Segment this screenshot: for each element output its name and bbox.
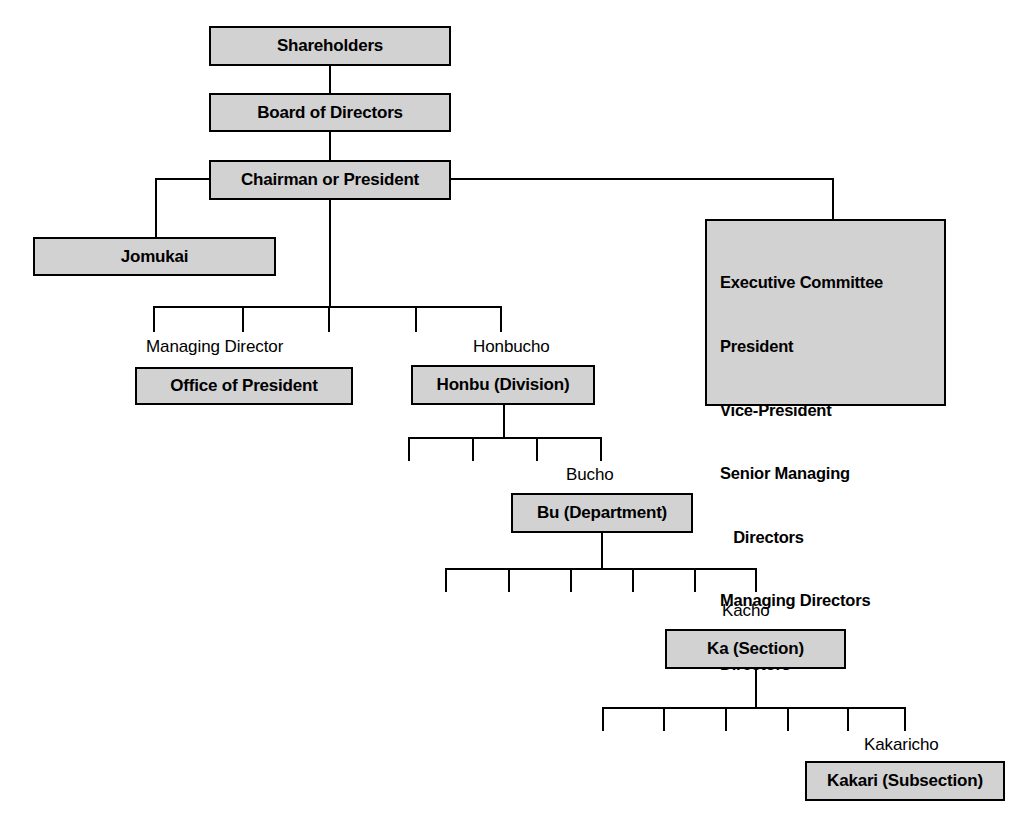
bus-tick-ka-4 (787, 707, 789, 731)
bus-bu-children (445, 568, 757, 570)
bus-tick-ka-1 (602, 707, 604, 731)
bus-tick-bu-6 (755, 568, 757, 592)
bus-tick-chairman-1 (153, 306, 155, 332)
node-ka-section[interactable]: Ka (Section) (665, 629, 846, 669)
bus-tick-honbu-3 (536, 437, 538, 461)
node-bu-department[interactable]: Bu (Department) (511, 493, 693, 533)
exec-line-senior-directors: Directors (720, 527, 944, 548)
node-honbu-division[interactable]: Honbu (Division) (411, 365, 595, 405)
bus-tick-bu-3 (570, 568, 572, 592)
bus-tick-honbu-1 (408, 437, 410, 461)
exec-line-president: President (720, 336, 944, 357)
label-kacho: Kacho (722, 602, 770, 619)
label-kakaricho: Kakaricho (864, 736, 939, 753)
node-executive-committee[interactable]: Executive Committee President Vice-Presi… (705, 219, 946, 406)
node-shareholders[interactable]: Shareholders (209, 26, 451, 66)
org-chart-diagram: Shareholders Board of Directors Chairman… (0, 0, 1034, 828)
bus-tick-chairman-3 (328, 306, 330, 332)
edge-chairman-to-jomukai-vertical (155, 178, 157, 238)
exec-line-vice-president: Vice-President (720, 400, 944, 421)
node-board-of-directors[interactable]: Board of Directors (209, 93, 451, 132)
edge-chairman-to-bus (329, 200, 331, 306)
bus-tick-bu-2 (508, 568, 510, 592)
edge-shareholders-to-board (329, 66, 331, 93)
bus-tick-bu-4 (632, 568, 634, 592)
label-bucho: Bucho (566, 466, 614, 483)
bus-honbu-children (408, 437, 602, 439)
edge-board-to-chairman (329, 132, 331, 160)
bus-tick-honbu-4 (600, 437, 602, 461)
bus-tick-ka-3 (725, 707, 727, 731)
bus-tick-ka-5 (847, 707, 849, 731)
bus-ka-children (602, 707, 906, 709)
node-kakari-subsection[interactable]: Kakari (Subsection) (805, 761, 1005, 801)
bus-tick-honbu-2 (472, 437, 474, 461)
node-chairman-or-president[interactable]: Chairman or President (209, 160, 451, 200)
edge-ka-to-bus (755, 669, 757, 707)
bus-tick-chairman-5 (500, 306, 502, 332)
label-honbucho: Honbucho (473, 338, 550, 355)
node-jomukai[interactable]: Jomukai (33, 237, 276, 276)
node-office-of-president[interactable]: Office of President (135, 367, 353, 405)
bus-tick-bu-5 (694, 568, 696, 592)
edge-chairman-to-jomukai-horizontal (155, 178, 211, 180)
bus-tick-ka-6 (904, 707, 906, 731)
edge-chairman-to-exec-committee-horizontal (449, 178, 834, 180)
bus-tick-chairman-4 (415, 306, 417, 332)
edge-bu-to-bus (601, 533, 603, 568)
exec-line-committee: Executive Committee (720, 272, 944, 293)
label-managing-director: Managing Director (146, 338, 283, 355)
edge-chairman-to-exec-committee-vertical (832, 178, 834, 220)
bus-tick-bu-1 (445, 568, 447, 592)
edge-honbu-to-bus (503, 405, 505, 437)
bus-tick-ka-2 (663, 707, 665, 731)
exec-line-senior-managing: Senior Managing (720, 463, 944, 484)
bus-tick-chairman-2 (242, 306, 244, 332)
